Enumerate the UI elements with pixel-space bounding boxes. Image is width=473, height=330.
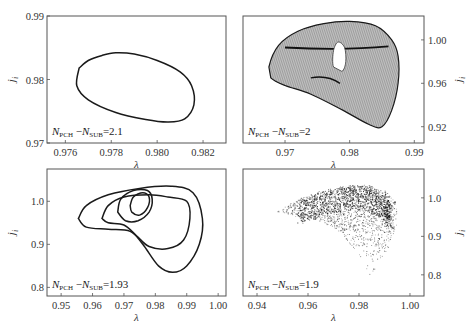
- panel-a: 0.9760.9780.9800.982λ0.970.980.99jiNPCH …: [5, 11, 226, 170]
- y-axis-label: ji: [5, 230, 20, 237]
- x-tick-label: 0.980: [145, 147, 169, 158]
- chart-canvas: 0.9760.9780.9800.982λ0.970.980.99jiNPCH …: [0, 0, 473, 330]
- y-tick-label: 0.99: [26, 11, 44, 22]
- plot-area: [278, 185, 398, 275]
- x-tick-label: 0.99: [178, 300, 196, 311]
- y-axis-label: ji: [5, 77, 20, 84]
- x-tick-label: 0.98: [340, 147, 358, 158]
- parameter-annotation: NPCH −NSUB=2.1: [51, 125, 123, 139]
- torus-hole: [333, 42, 346, 71]
- y-tick-label: 1.0: [31, 196, 44, 207]
- x-tick-label: 0.98: [350, 300, 368, 311]
- x-tick-label: 0.95: [52, 300, 70, 311]
- x-tick-label: 1.00: [209, 300, 227, 311]
- y-tick-label: 1.00: [428, 35, 446, 46]
- x-tick-label: 0.97: [115, 300, 133, 311]
- x-tick-label: 0.96: [83, 300, 101, 311]
- limit-cycle-curve: [76, 53, 194, 122]
- x-axis-label: λ: [133, 311, 139, 323]
- parameter-annotation: NPCH −NSUB=1.9: [247, 278, 319, 292]
- y-tick-label: 0.8: [428, 270, 441, 281]
- y-tick-label: 0.8: [31, 282, 44, 293]
- limit-cycle-curve: [102, 195, 190, 249]
- x-tick-label: 0.982: [191, 147, 215, 158]
- axes-frame: [47, 16, 226, 143]
- x-tick-label: 0.976: [54, 147, 78, 158]
- x-tick-label: 0.99: [405, 147, 423, 158]
- parameter-annotation: NPCH −NSUB=1.93: [51, 278, 129, 292]
- panel-d: 0.940.960.981.00λ0.80.91.0jiNPCH −NSUB=1…: [243, 169, 467, 323]
- axes-frame: [243, 169, 424, 296]
- x-axis-label: λ: [330, 311, 336, 323]
- plot-area: [155, 16, 473, 143]
- x-tick-label: 1.00: [401, 300, 419, 311]
- plot-area: [76, 53, 194, 122]
- x-tick-label: 0.978: [99, 147, 123, 158]
- x-tick-label: 0.96: [299, 300, 317, 311]
- panel-c: 0.950.960.970.980.991.00λ0.80.91.0jiNPCH…: [5, 169, 227, 323]
- parameter-annotation: NPCH −NSUB=2: [247, 125, 311, 139]
- y-tick-label: 0.96: [428, 78, 446, 89]
- y-tick-label: 0.92: [428, 122, 446, 133]
- y-tick-label: 0.98: [26, 75, 44, 86]
- x-tick-label: 0.94: [248, 300, 267, 311]
- plot-area: [78, 186, 202, 272]
- y-axis-label: ji: [452, 77, 467, 84]
- x-axis-label: λ: [330, 158, 336, 170]
- y-tick-label: 1.0: [428, 193, 441, 204]
- y-tick-label: 0.9: [428, 231, 441, 242]
- x-axis-label: λ: [133, 158, 139, 170]
- x-tick-label: 0.98: [146, 300, 164, 311]
- x-tick-label: 0.97: [276, 147, 294, 158]
- y-tick-label: 0.9: [31, 239, 44, 250]
- y-tick-label: 0.97: [26, 138, 44, 149]
- y-axis-label: ji: [452, 230, 467, 237]
- axes-frame: [47, 169, 226, 296]
